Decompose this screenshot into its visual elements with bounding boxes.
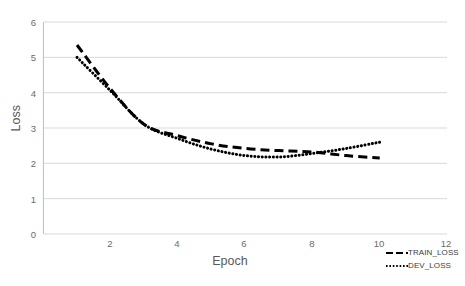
y-tick-6: 6 [22, 18, 36, 28]
legend-label-train-loss: TRAIN_LOSS [408, 248, 459, 257]
legend-label-dev-loss: DEV_LOSS [408, 261, 451, 270]
series-lines [77, 45, 380, 158]
legend-swatch-dotted-icon [386, 261, 408, 271]
y-tick-5: 5 [22, 53, 36, 63]
legend-item-dev-loss[interactable]: DEV_LOSS [386, 259, 464, 272]
gridlines [43, 22, 447, 234]
x-tick-8: 8 [301, 239, 323, 249]
series-line-dev-loss [77, 57, 380, 157]
legend-item-train-loss[interactable]: TRAIN_LOSS [386, 246, 464, 259]
y-tick-2: 2 [22, 159, 36, 169]
y-tick-0: 0 [22, 230, 36, 240]
x-tick-2: 2 [99, 239, 121, 249]
loss-curve-chart: 6 5 4 3 2 1 0 2 4 6 8 10 12 Loss Epoch T… [0, 0, 465, 286]
legend-swatch-dashed-icon [386, 248, 408, 258]
y-tick-4: 4 [22, 89, 36, 99]
y-tick-1: 1 [22, 195, 36, 205]
x-tick-6: 6 [233, 239, 255, 249]
chart-legend: TRAIN_LOSS DEV_LOSS [386, 246, 464, 272]
y-axis-title: Loss [10, 94, 23, 142]
x-tick-4: 4 [166, 239, 188, 249]
y-tick-3: 3 [22, 124, 36, 134]
x-axis-title: Epoch [198, 255, 262, 268]
